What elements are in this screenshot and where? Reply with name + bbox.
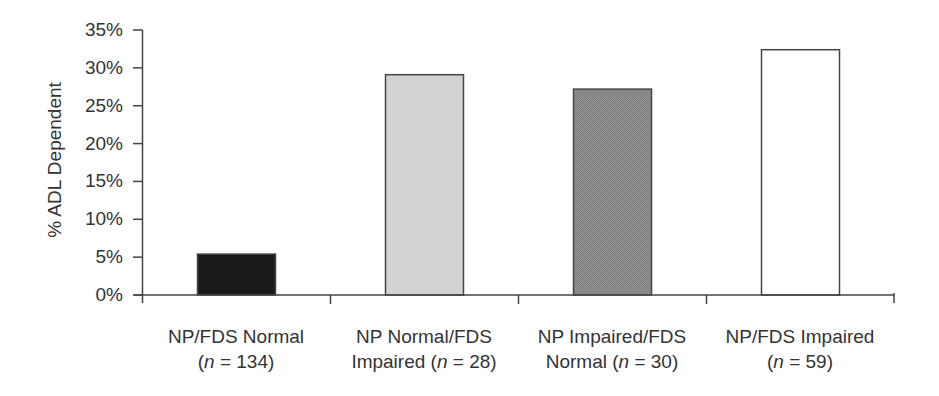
x-category-label: NP/FDS Impaired (n = 59) [706, 324, 894, 374]
x-category-line1: NP/FDS Normal [142, 324, 330, 349]
label-text: = 59) [784, 351, 833, 372]
x-category-label: NP Impaired/FDS Normal (n = 30) [518, 324, 706, 374]
x-category-line1: NP/FDS Impaired [706, 324, 894, 349]
x-category-line2: (n = 59) [706, 349, 894, 374]
y-tick-label: 0% [96, 285, 123, 305]
y-tick-label: 10% [85, 209, 123, 229]
x-category-line1: NP Normal/FDS [330, 324, 518, 349]
bars-group [198, 50, 840, 295]
label-text: = 134) [215, 351, 275, 372]
label-n: n [204, 351, 215, 372]
label-n: n [773, 351, 784, 372]
x-category-line1: NP Impaired/FDS [518, 324, 706, 349]
y-axis-label: % ADL Dependent [44, 82, 66, 238]
bar [762, 50, 840, 295]
label-text: Normal ( [546, 351, 619, 372]
bar [574, 89, 652, 295]
y-tick-label: 5% [96, 247, 123, 267]
y-ticks-group [133, 30, 143, 295]
x-category-label: NP/FDS Normal (n = 134) [142, 324, 330, 374]
x-category-line2: (n = 134) [142, 349, 330, 374]
x-category-label: NP Normal/FDS Impaired (n = 28) [330, 324, 518, 374]
x-category-line2: Normal (n = 30) [518, 349, 706, 374]
y-tick-label: 20% [85, 134, 123, 154]
y-tick-label: 35% [85, 20, 123, 40]
label-text: = 28) [447, 351, 496, 372]
bar [386, 75, 464, 295]
y-tick-label: 30% [85, 58, 123, 78]
x-category-line2: Impaired (n = 28) [330, 349, 518, 374]
label-n: n [437, 351, 448, 372]
bar [198, 254, 276, 295]
label-text: Impaired ( [351, 351, 437, 372]
y-tick-label: 25% [85, 96, 123, 116]
y-tick-label: 15% [85, 171, 123, 191]
x-ticks-group [331, 295, 707, 304]
label-text: = 30) [629, 351, 678, 372]
label-n: n [619, 351, 630, 372]
